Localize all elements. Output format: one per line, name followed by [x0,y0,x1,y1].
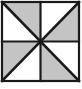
pinwheel-square-figure [0,0,82,89]
figure-container [0,0,82,89]
